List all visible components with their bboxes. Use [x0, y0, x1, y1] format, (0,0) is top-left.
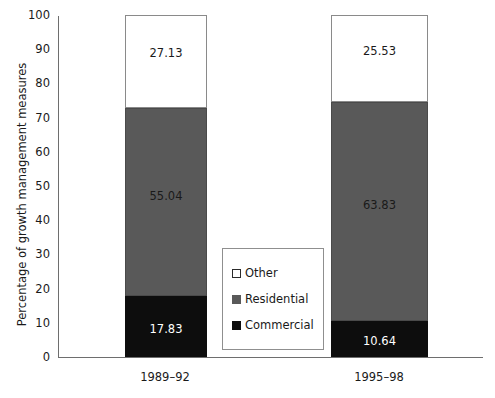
y-tick-0: 0 — [2, 352, 50, 364]
legend-swatch-other-icon — [232, 269, 241, 278]
y-tick-70: 70 — [2, 113, 50, 125]
legend-swatch-residential-icon — [232, 295, 241, 304]
y-tick-60: 60 — [2, 147, 50, 159]
y-tick-80: 80 — [2, 79, 50, 91]
data-label-commercial-1995-98: 10.64 — [363, 335, 396, 347]
y-tick-50: 50 — [2, 181, 50, 193]
bar-1989-92[interactable]: 27.13 55.04 17.83 — [125, 15, 207, 357]
data-label-residential-1989-92: 55.04 — [150, 190, 183, 202]
legend-item-residential[interactable]: Residential — [232, 293, 323, 305]
bar-1995-98[interactable]: 25.53 63.83 10.64 — [331, 15, 428, 357]
y-tick-10: 10 — [2, 318, 50, 330]
legend-swatch-commercial-icon — [232, 321, 241, 330]
y-tick-40: 40 — [2, 215, 50, 227]
y-axis-tick-labels: 100 90 80 70 60 50 40 30 20 10 0 — [0, 0, 56, 398]
data-label-other-1995-98: 25.53 — [363, 45, 396, 57]
segment-commercial-1989-92[interactable]: 17.83 — [125, 296, 207, 357]
stacked-bar-chart: Percentage of growth management measures… — [0, 0, 495, 398]
y-tick-30: 30 — [2, 250, 50, 262]
x-tick-label-1989-92: 1989–92 — [95, 370, 235, 384]
legend-label-other: Other — [245, 267, 278, 279]
data-label-other-1989-92: 27.13 — [150, 47, 183, 59]
segment-other-1989-92[interactable]: 27.13 — [125, 15, 207, 108]
y-tick-20: 20 — [2, 284, 50, 296]
legend-item-commercial[interactable]: Commercial — [232, 319, 323, 331]
data-label-residential-1995-98: 63.83 — [363, 199, 396, 211]
segment-other-1995-98[interactable]: 25.53 — [331, 15, 428, 102]
chart-legend: Other Residential Commercial — [222, 248, 324, 350]
legend-label-commercial: Commercial — [245, 319, 314, 331]
segment-commercial-1995-98[interactable]: 10.64 — [331, 321, 428, 357]
segment-residential-1995-98[interactable]: 63.83 — [331, 102, 428, 320]
legend-label-residential: Residential — [245, 293, 308, 305]
data-label-commercial-1989-92: 17.83 — [150, 323, 183, 335]
y-tick-100: 100 — [2, 10, 50, 22]
y-tick-90: 90 — [2, 44, 50, 56]
segment-residential-1989-92[interactable]: 55.04 — [125, 108, 207, 296]
x-tick-label-1995-98: 1995–98 — [309, 370, 449, 384]
legend-item-other[interactable]: Other — [232, 267, 323, 279]
